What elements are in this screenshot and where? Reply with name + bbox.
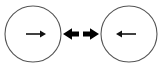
diagram-svg bbox=[0, 0, 162, 72]
diagram-background bbox=[0, 0, 162, 72]
diagram-canvas bbox=[0, 0, 162, 72]
